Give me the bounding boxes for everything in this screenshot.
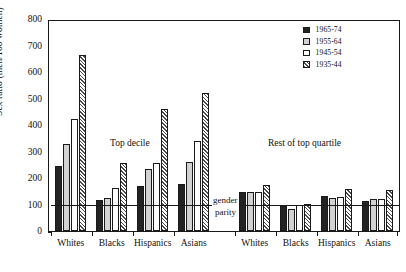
- bar: [71, 119, 78, 231]
- x-tick-mark: [276, 232, 277, 236]
- bar: [202, 93, 209, 231]
- bar-group: [362, 21, 393, 231]
- x-axis-label: Asians: [365, 238, 391, 248]
- y-tick-label: 200: [28, 174, 42, 184]
- bar: [178, 184, 185, 231]
- legend-label: 1965-74: [316, 24, 342, 36]
- bar: [112, 188, 119, 231]
- bar: [247, 192, 254, 231]
- x-tick-mark: [317, 232, 318, 236]
- x-axis-label: Whites: [57, 238, 84, 248]
- x-tick-mark: [92, 232, 93, 236]
- bar: [263, 185, 270, 231]
- bar-group: [137, 21, 168, 231]
- chart-figure: Sex ratio (men/100 women) 800 700 600 50…: [0, 0, 406, 272]
- bar: [345, 189, 352, 231]
- bar: [161, 109, 168, 231]
- bar: [321, 196, 328, 231]
- y-tick-label: 400: [28, 121, 42, 131]
- y-tick-label: 100: [28, 201, 42, 211]
- bar: [186, 162, 193, 231]
- parity-label-line1: gender: [212, 195, 239, 206]
- bar: [329, 198, 336, 231]
- legend-item: 1935-44: [303, 59, 342, 71]
- bar: [304, 204, 311, 231]
- legend-swatch-white: [303, 50, 310, 57]
- bar: [239, 192, 246, 231]
- panel-label-top-decile: Top decile: [110, 138, 150, 148]
- y-tick-label: 700: [28, 42, 42, 52]
- x-tick-mark: [397, 232, 398, 236]
- bar: [137, 186, 144, 231]
- legend-swatch-gray: [303, 38, 310, 45]
- x-tick-mark: [174, 232, 175, 236]
- y-tick-label: 300: [28, 148, 42, 158]
- y-axis-ticks: 800 700 600 500 400 300 200 100 0: [0, 20, 48, 232]
- x-tick-mark: [133, 232, 134, 236]
- bar: [104, 198, 111, 231]
- x-tick-mark: [235, 232, 236, 236]
- x-tick-mark: [51, 232, 52, 236]
- legend-item: 1945-54: [303, 47, 342, 59]
- parity-label-line2: parity: [214, 207, 237, 218]
- y-tick-label: 800: [28, 15, 42, 25]
- bar: [296, 205, 303, 231]
- bar-group: [96, 21, 127, 231]
- bar-group: [239, 21, 270, 231]
- bar: [288, 209, 295, 231]
- legend-label: 1945-54: [316, 47, 342, 59]
- bar-group: [55, 21, 86, 231]
- gender-parity-line: [245, 205, 399, 206]
- y-tick-label: 600: [28, 68, 42, 78]
- x-axis-label: Whites: [241, 238, 268, 248]
- legend: 1965-741955-641945-541935-44: [303, 24, 342, 70]
- bar-group: [178, 21, 209, 231]
- panel-label-rest-quartile: Rest of top quartile: [268, 138, 341, 148]
- legend-label: 1935-44: [316, 59, 342, 71]
- x-axis-label: Asians: [181, 238, 207, 248]
- x-axis-label: Blacks: [283, 238, 309, 248]
- bar: [120, 163, 127, 231]
- bar: [145, 169, 152, 231]
- legend-item: 1965-74: [303, 24, 342, 36]
- x-axis-label: Hispanics: [318, 238, 355, 248]
- legend-swatch-hatch: [303, 61, 310, 68]
- bar: [55, 166, 62, 231]
- x-axis-label: Blacks: [99, 238, 125, 248]
- bar: [280, 206, 287, 231]
- bar: [194, 141, 201, 231]
- bar: [255, 192, 262, 231]
- y-tick-label: 0: [37, 227, 42, 237]
- legend-item: 1955-64: [303, 36, 342, 48]
- bar: [153, 163, 160, 231]
- legend-swatch-black: [303, 27, 310, 34]
- bar: [337, 197, 344, 231]
- legend-label: 1955-64: [316, 36, 342, 48]
- x-tick-mark: [358, 232, 359, 236]
- bar: [386, 190, 393, 231]
- bar: [63, 144, 70, 231]
- x-axis-label: Hispanics: [134, 238, 171, 248]
- y-tick-label: 500: [28, 95, 42, 105]
